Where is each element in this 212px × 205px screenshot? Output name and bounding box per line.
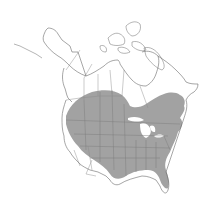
baffin-island — [144, 47, 164, 70]
alaska-outline — [43, 28, 86, 76]
species-range-layer — [66, 90, 185, 188]
range-map: Range map — [0, 0, 212, 205]
species-range-area — [66, 90, 185, 188]
map-canvas — [0, 0, 212, 205]
hudson-bay — [120, 51, 159, 86]
aleutian-islands — [14, 44, 42, 58]
alaska-panhandle — [63, 68, 73, 102]
arctic-islands — [100, 22, 146, 53]
alaska-canada-border — [66, 50, 80, 70]
canada-north-coast — [86, 60, 120, 76]
labrador-coast — [158, 56, 198, 84]
